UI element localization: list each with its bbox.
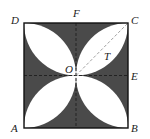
label-b: B bbox=[131, 122, 138, 134]
label-c: C bbox=[131, 14, 139, 26]
geometry-figure: D F C T O E A B bbox=[0, 0, 150, 139]
label-e: E bbox=[130, 70, 138, 82]
label-o: O bbox=[65, 63, 73, 75]
label-d: D bbox=[10, 14, 19, 26]
label-f: F bbox=[72, 7, 80, 19]
label-a: A bbox=[10, 122, 18, 134]
label-t: T bbox=[104, 50, 111, 62]
